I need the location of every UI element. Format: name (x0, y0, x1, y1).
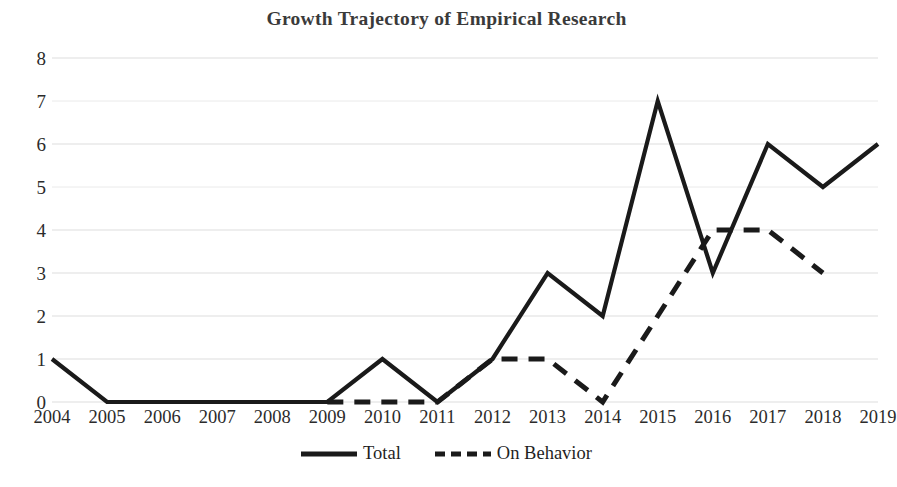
x-tick-label: 2018 (804, 406, 841, 428)
x-tick-label: 2005 (89, 406, 126, 428)
x-tick-label: 2016 (694, 406, 731, 428)
x-tick-label: 2012 (474, 406, 511, 428)
x-tick-label: 2009 (309, 406, 346, 428)
y-tick-label: 4 (0, 221, 46, 240)
x-tick-label: 2006 (144, 406, 181, 428)
y-axis: 012345678 (0, 58, 46, 402)
y-tick-label: 3 (0, 264, 46, 283)
chart-title: Growth Trajectory of Empirical Research (0, 8, 893, 30)
solid-line-swatch (301, 447, 357, 461)
y-tick-label: 8 (0, 49, 46, 68)
x-axis: 2004200520062007200820092010201120122013… (52, 406, 878, 434)
x-tick-label: 2013 (529, 406, 566, 428)
y-tick-label: 1 (0, 350, 46, 369)
legend-item[interactable]: On Behavior (435, 443, 592, 464)
x-tick-label: 2007 (199, 406, 236, 428)
chart-legend: TotalOn Behavior (0, 443, 893, 464)
y-tick-label: 6 (0, 135, 46, 154)
x-tick-label: 2008 (254, 406, 291, 428)
x-tick-label: 2017 (749, 406, 786, 428)
dashed-line-swatch (435, 447, 491, 461)
series-layer (52, 101, 878, 402)
series-line (52, 101, 878, 402)
x-tick-label: 2019 (860, 406, 897, 428)
x-tick-label: 2014 (584, 406, 621, 428)
x-tick-label: 2004 (34, 406, 71, 428)
x-tick-label: 2010 (364, 406, 401, 428)
y-tick-label: 7 (0, 92, 46, 111)
plot-area (52, 58, 878, 402)
x-tick-label: 2011 (419, 406, 455, 428)
legend-label: On Behavior (497, 443, 592, 464)
x-tick-label: 2015 (639, 406, 676, 428)
y-tick-label: 2 (0, 307, 46, 326)
y-tick-label: 5 (0, 178, 46, 197)
legend-item[interactable]: Total (301, 443, 401, 464)
legend-label: Total (363, 443, 401, 464)
plot-svg (52, 58, 878, 402)
